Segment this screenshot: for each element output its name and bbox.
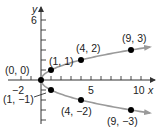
data-point	[128, 47, 134, 53]
point-label-9-neg3: (9, −3)	[107, 115, 138, 127]
point-label-1-neg1: (1, −1)	[3, 93, 34, 105]
x-axis-label: x	[147, 84, 154, 96]
data-point	[128, 107, 134, 113]
x-tick-label-5: 5	[88, 84, 94, 96]
y-tick-label-6: 6	[31, 14, 37, 26]
point-label-0-0: (0, 0)	[5, 64, 30, 76]
data-point	[48, 87, 54, 93]
data-point	[48, 67, 54, 73]
parabola-graph: x y −2 5 10 6 (0, 0) (1, 1) (4, 2) (9, 3…	[0, 0, 160, 129]
point-label-4-neg2: (4, −2)	[61, 105, 92, 117]
point-label-4-2: (4, 2)	[76, 42, 101, 54]
data-point	[38, 77, 44, 83]
data-point	[78, 97, 84, 103]
data-point	[78, 57, 84, 63]
point-label-9-3: (9, 3)	[122, 32, 147, 44]
label-leader-line	[34, 93, 46, 97]
x-tick-label-10: 10	[133, 84, 145, 96]
y-axis-ticks	[41, 20, 46, 120]
point-label-1-1: (1, 1)	[49, 55, 74, 67]
